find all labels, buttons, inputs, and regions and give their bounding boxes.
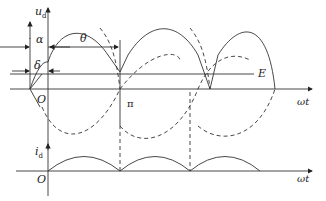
ud-axis-label: ud	[35, 6, 47, 20]
wt-label-top: ωt	[297, 97, 309, 107]
id-axis-label: id	[35, 146, 43, 160]
diagram-lines	[0, 0, 326, 201]
origin-label-bottom: O	[37, 174, 46, 185]
delta-label: δ	[34, 60, 41, 71]
origin-label-top: O	[37, 94, 46, 105]
alpha-label: α	[36, 34, 43, 45]
id-waveform	[48, 157, 260, 172]
waveform-diagram: ud α θ δ E O π ωt id O ωt	[0, 0, 326, 201]
e-label: E	[258, 68, 266, 79]
pi-label: π	[127, 99, 134, 109]
wt-label-bottom: ωt	[297, 174, 309, 184]
theta-label: θ	[80, 33, 87, 44]
